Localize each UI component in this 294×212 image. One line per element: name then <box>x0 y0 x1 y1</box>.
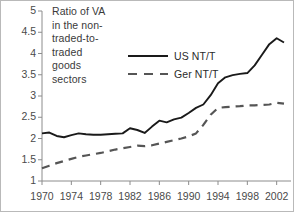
y-axis-tick-label: 1 <box>8 174 36 186</box>
legend-swatch-solid-icon <box>128 51 168 61</box>
chart-title: Ratio of VA in the non- traded-to- trade… <box>52 5 124 87</box>
y-axis-ticks <box>38 11 42 181</box>
y-axis-tick-label: 4 <box>8 47 36 59</box>
chart-title-line: Ratio of VA <box>52 5 124 19</box>
chart-title-line: sectors <box>52 73 124 87</box>
legend-swatch-dashed-icon <box>128 69 168 79</box>
legend-label-ger: Ger NT/T <box>174 68 219 80</box>
chart-title-line: traded <box>52 46 124 60</box>
y-axis-tick-label: 1.5 <box>8 153 36 165</box>
chart-figure: Ratio of VA in the non- traded-to- trade… <box>0 0 294 212</box>
chart-plot-area <box>1 1 294 212</box>
x-axis-tick-label: 2002 <box>257 190 294 202</box>
chart-title-line: traded-to- <box>52 32 124 46</box>
x-axis-ticks <box>42 181 277 185</box>
y-axis-tick-label: 3.5 <box>8 68 36 80</box>
legend-label-us: US NT/T <box>174 50 216 62</box>
chart-title-line: in the non- <box>52 19 124 33</box>
y-axis-tick-label: 5 <box>8 4 36 16</box>
legend-item-us: US NT/T <box>128 47 219 65</box>
chart-line-ger-nt-t <box>42 103 284 168</box>
chart-title-line: goods <box>52 59 124 73</box>
legend-item-ger: Ger NT/T <box>128 65 219 83</box>
chart-legend: US NT/T Ger NT/T <box>128 47 219 83</box>
y-axis-tick-label: 2 <box>8 132 36 144</box>
y-axis-tick-label: 3 <box>8 89 36 101</box>
y-axis-tick-label: 4.5 <box>8 25 36 37</box>
y-axis-tick-label: 2.5 <box>8 110 36 122</box>
